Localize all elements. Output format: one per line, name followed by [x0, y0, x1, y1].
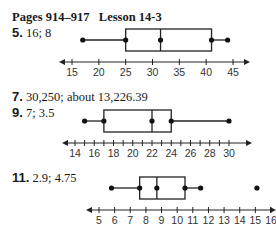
data-point [198, 185, 203, 190]
tick-label: 11 [187, 214, 198, 226]
tick-label: 25 [120, 66, 132, 78]
tick-label: 40 [200, 66, 212, 78]
quartile-box [104, 110, 171, 132]
data-point [80, 37, 85, 42]
tick-label: 24 [165, 147, 177, 159]
data-point [82, 118, 87, 123]
data-point [182, 185, 187, 190]
data-point [158, 37, 163, 42]
tick-label: 12 [203, 214, 215, 226]
tick-label: 30 [223, 147, 235, 159]
tick-label: 5 [96, 214, 102, 226]
tick-label: 20 [127, 147, 139, 159]
tick-label: 10 [171, 214, 183, 226]
data-point [154, 185, 159, 190]
tick-label: 35 [173, 66, 185, 78]
data-point [169, 118, 174, 123]
tick-label: 22 [146, 147, 158, 159]
data-point [226, 118, 231, 123]
box-plots: 1520253035404514161820222426283056789101… [0, 0, 276, 241]
tick-label: 26 [185, 147, 197, 159]
data-point [225, 37, 230, 42]
tick-label: 7 [127, 214, 133, 226]
quartile-box [126, 29, 212, 51]
tick-label: 20 [93, 66, 105, 78]
tick-label: 13 [218, 214, 230, 226]
arrow-left-icon [62, 140, 68, 146]
outlier-point [254, 185, 259, 190]
data-point [123, 37, 128, 42]
data-point [209, 37, 214, 42]
tick-label: 16 [88, 147, 100, 159]
data-point [137, 185, 142, 190]
tick-label: 9 [159, 214, 165, 226]
tick-label: 16 [265, 214, 276, 226]
arrow-right-icon [244, 59, 250, 65]
arrow-right-icon [246, 140, 252, 146]
tick-label: 18 [108, 147, 120, 159]
arrow-left-icon [59, 59, 65, 65]
tick-label: 14 [69, 147, 81, 159]
data-point [101, 118, 106, 123]
tick-label: 14 [234, 214, 246, 226]
tick-label: 6 [112, 214, 118, 226]
tick-label: 30 [147, 66, 159, 78]
tick-label: 15 [250, 214, 262, 226]
data-point [149, 118, 154, 123]
quartile-box [140, 177, 185, 199]
tick-label: 28 [204, 147, 216, 159]
arrow-left-icon [86, 207, 92, 213]
tick-label: 45 [227, 66, 239, 78]
data-point [109, 185, 114, 190]
tick-label: 15 [66, 66, 78, 78]
tick-label: 8 [143, 214, 149, 226]
